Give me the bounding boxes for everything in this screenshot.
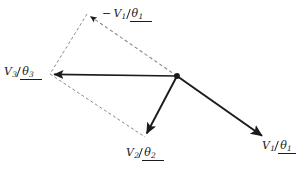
label-neg-v1-symbol: V <box>113 7 121 20</box>
v2-vector <box>147 76 177 134</box>
construction-left-upper <box>50 14 87 74</box>
label-neg-v1-sign: − <box>102 7 113 20</box>
label-neg-v1: −V1θ1 <box>102 8 143 21</box>
label-v3: V3θ3 <box>4 66 34 79</box>
label-v1-theta-subscript: 1 <box>287 144 292 153</box>
angle-icon: θ1 <box>127 8 144 21</box>
label-v3-symbol: V <box>4 65 12 78</box>
label-v1-symbol: V <box>262 139 270 152</box>
label-v2-symbol: V <box>126 146 134 159</box>
angle-icon: θ2 <box>139 147 156 160</box>
origin-node <box>174 73 180 79</box>
phasor-diagram-figure: −V1θ1 V3θ3 V2θ2 V1θ1 <box>0 0 296 172</box>
angle-icon: θ3 <box>17 66 34 79</box>
label-v3-theta-subscript: 3 <box>29 70 34 79</box>
v3-vector <box>54 74 177 76</box>
v1-vector <box>177 76 262 136</box>
angle-icon: θ1 <box>275 140 292 153</box>
construction-left-lower <box>50 74 145 137</box>
neg-v1-vector <box>91 17 178 77</box>
label-v1: V1θ1 <box>262 140 292 153</box>
label-v3-theta: θ <box>20 65 29 78</box>
label-v2-theta: θ <box>142 146 151 159</box>
label-v2: V2θ2 <box>126 147 156 160</box>
label-v2-theta-subscript: 2 <box>151 151 156 160</box>
label-neg-v1-theta-subscript: 1 <box>138 12 143 21</box>
label-v1-theta: θ <box>278 139 287 152</box>
